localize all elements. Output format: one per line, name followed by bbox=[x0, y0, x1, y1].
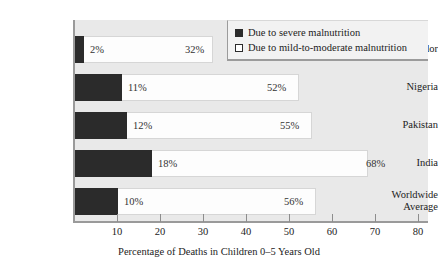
x-tick-40 bbox=[246, 214, 247, 222]
x-tick-label-20: 20 bbox=[155, 226, 166, 237]
x-tick-20 bbox=[160, 214, 161, 222]
bar-label-mild-worldwide-average: 56% bbox=[284, 188, 303, 215]
filled-square-icon bbox=[235, 29, 243, 37]
x-tick-30 bbox=[203, 214, 204, 222]
x-tick-10 bbox=[117, 214, 118, 222]
bar-severe-worldwide-average bbox=[75, 188, 118, 215]
legend-item-severe: Due to severe malnutrition bbox=[235, 25, 423, 40]
category-label-worldwide-average: Worldwide Average bbox=[372, 189, 438, 213]
bar-label-mild-india: 68% bbox=[366, 150, 385, 177]
bar-severe-pakistan bbox=[75, 112, 127, 139]
bar-severe-nigeria bbox=[75, 74, 122, 101]
x-axis-title: Percentage of Deaths in Children 0–5 Yea… bbox=[0, 246, 438, 257]
bar-severe-india bbox=[75, 150, 152, 177]
bar-label-severe-pakistan: 12% bbox=[133, 112, 152, 139]
bar-chart: Ecuador 2% 32% Nigeria 11% 52% Pakistan … bbox=[0, 0, 438, 273]
bar-label-mild-nigeria: 52% bbox=[267, 74, 286, 101]
open-square-icon bbox=[235, 44, 243, 52]
x-tick-label-60: 60 bbox=[327, 226, 338, 237]
category-label-line1: Worldwide bbox=[372, 189, 438, 201]
category-label-pakistan: Pakistan bbox=[372, 119, 438, 131]
x-tick-label-50: 50 bbox=[284, 226, 295, 237]
bar-label-severe-worldwide-average: 10% bbox=[124, 188, 143, 215]
x-tick-label-40: 40 bbox=[241, 226, 252, 237]
bar-label-severe-nigeria: 11% bbox=[128, 74, 147, 101]
x-tick-label-10: 10 bbox=[112, 226, 123, 237]
legend: Due to severe malnutrition Due to mild-t… bbox=[227, 20, 428, 61]
x-tick-label-80: 80 bbox=[413, 226, 424, 237]
bar-severe-ecuador bbox=[75, 36, 84, 63]
category-label-line1: Nigeria bbox=[372, 81, 438, 93]
bar-label-severe-india: 18% bbox=[158, 150, 177, 177]
x-tick-60 bbox=[332, 214, 333, 222]
legend-item-mild: Due to mild-to-moderate malnutrition bbox=[235, 40, 423, 55]
category-label-nigeria: Nigeria bbox=[372, 81, 438, 93]
x-tick-80 bbox=[418, 214, 419, 222]
category-label-line2: Average bbox=[372, 201, 438, 213]
legend-label-mild: Due to mild-to-moderate malnutrition bbox=[248, 42, 407, 53]
bar-label-severe-ecuador: 2% bbox=[90, 36, 104, 63]
legend-label-severe: Due to severe malnutrition bbox=[248, 27, 360, 38]
x-tick-50 bbox=[289, 214, 290, 222]
x-tick-label-30: 30 bbox=[198, 226, 209, 237]
bar-label-mild-ecuador: 32% bbox=[185, 36, 204, 63]
bar-label-mild-pakistan: 55% bbox=[280, 112, 299, 139]
x-tick-70 bbox=[375, 214, 376, 222]
x-tick-label-70: 70 bbox=[370, 226, 381, 237]
category-label-line1: Pakistan bbox=[372, 119, 438, 131]
